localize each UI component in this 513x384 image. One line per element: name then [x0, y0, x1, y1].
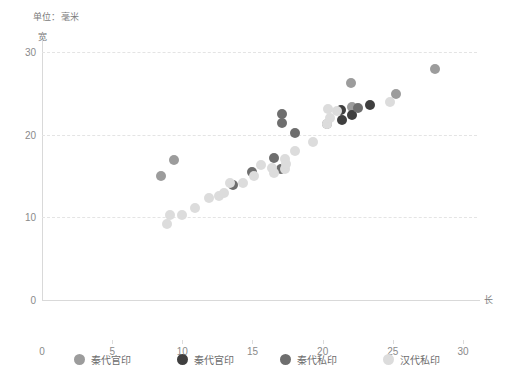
data-point[interactable] — [238, 178, 248, 188]
gridline-y-10 — [42, 217, 477, 218]
legend-label: 秦代官印 — [194, 352, 234, 367]
data-point[interactable] — [281, 159, 291, 169]
plot-area: 0102030051015202530 — [42, 40, 477, 300]
data-point[interactable] — [225, 178, 235, 188]
y-tick-label-30: 30 — [25, 47, 36, 58]
x-tick-mark-15 — [252, 340, 253, 344]
data-point[interactable] — [190, 203, 200, 213]
data-point[interactable] — [277, 118, 287, 128]
data-point[interactable] — [269, 153, 279, 163]
data-point[interactable] — [249, 171, 259, 181]
data-point[interactable] — [169, 155, 179, 165]
data-point[interactable] — [219, 188, 229, 198]
data-point[interactable] — [290, 128, 300, 138]
legend-item-0[interactable]: 秦代官印 — [74, 352, 131, 367]
data-point[interactable] — [337, 115, 347, 125]
data-point[interactable] — [277, 109, 287, 119]
data-point[interactable] — [204, 193, 214, 203]
y-tick-label-0: 0 — [30, 295, 36, 306]
data-point[interactable] — [162, 219, 172, 229]
legend-item-1[interactable]: 秦代官印 — [177, 352, 234, 367]
chart-legend: 秦代官印秦代官印秦代私印汉代私印 — [0, 352, 513, 367]
data-point[interactable] — [165, 210, 175, 220]
data-point[interactable] — [385, 97, 395, 107]
x-tick-mark-30 — [463, 340, 464, 344]
legend-label: 秦代私印 — [297, 352, 337, 367]
legend-swatch-icon — [383, 354, 394, 365]
x-axis-label: 长 — [484, 293, 493, 306]
scatter-chart-page: 单位：毫米 宽 长 0102030051015202530 秦代官印秦代官印秦代… — [0, 0, 513, 384]
data-point[interactable] — [346, 78, 356, 88]
legend-swatch-icon — [280, 354, 291, 365]
unit-caption: 单位：毫米 — [33, 10, 79, 23]
data-point[interactable] — [256, 160, 266, 170]
legend-label: 汉代私印 — [400, 352, 440, 367]
x-tick-mark-25 — [393, 340, 394, 344]
data-point[interactable] — [353, 103, 363, 113]
legend-item-3[interactable]: 汉代私印 — [383, 352, 440, 367]
data-point[interactable] — [177, 210, 187, 220]
data-point[interactable] — [290, 146, 300, 156]
legend-swatch-icon — [74, 354, 85, 365]
x-axis-line — [42, 300, 480, 301]
y-tick-label-20: 20 — [25, 129, 36, 140]
data-point[interactable] — [430, 64, 440, 74]
data-point[interactable] — [269, 168, 279, 178]
x-tick-mark-20 — [323, 340, 324, 344]
x-tick-mark-10 — [182, 340, 183, 344]
legend-swatch-icon — [177, 354, 188, 365]
x-tick-mark-5 — [112, 340, 113, 344]
gridline-y-30 — [42, 52, 477, 53]
legend-item-2[interactable]: 秦代私印 — [280, 352, 337, 367]
data-point[interactable] — [308, 137, 318, 147]
legend-label: 秦代官印 — [91, 352, 131, 367]
data-point[interactable] — [332, 106, 342, 116]
data-point[interactable] — [156, 171, 166, 181]
data-point[interactable] — [365, 100, 375, 110]
gridline-y-20 — [42, 135, 477, 136]
y-tick-label-10: 10 — [25, 212, 36, 223]
